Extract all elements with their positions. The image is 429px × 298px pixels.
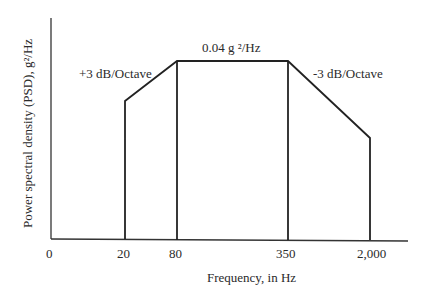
psd-profile-line xyxy=(125,61,370,240)
y-axis-label: Power spectral density (PSD), g²/Hz xyxy=(20,39,36,228)
x-tick-20: 20 xyxy=(117,246,130,262)
x-tick-2000: 2,000 xyxy=(357,246,386,262)
x-axis xyxy=(51,239,408,241)
x-tick-80: 80 xyxy=(169,246,182,262)
annotation-plateau: 0.04 g ²/Hz xyxy=(202,40,260,56)
x-axis-label: Frequency, in Hz xyxy=(207,270,296,286)
x-tick-0: 0 xyxy=(46,246,53,262)
annotation-fall: -3 dB/Octave xyxy=(313,66,383,82)
x-tick-350: 350 xyxy=(276,246,296,262)
annotation-rise: +3 dB/Octave xyxy=(79,66,152,82)
